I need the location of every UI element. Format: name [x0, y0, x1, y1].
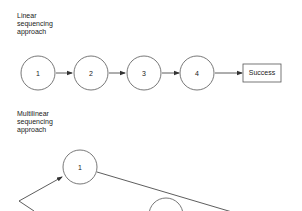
success-box: Success [243, 64, 281, 82]
linear-node-3-label: 3 [142, 70, 146, 77]
multilinear-entry-branch [19, 201, 34, 211]
linear-node-3: 3 [127, 56, 161, 90]
linear-node-1: 1 [21, 56, 55, 90]
sequencing-diagram: 1 2 3 4 Success 1 [0, 0, 302, 211]
linear-node-1-label: 1 [36, 70, 40, 77]
linear-node-2-label: 2 [89, 70, 93, 77]
success-label: Success [249, 69, 276, 76]
multilinear-node-partial [149, 198, 183, 211]
multilinear-entry-arrow [19, 177, 62, 201]
linear-node-4-label: 4 [195, 70, 199, 77]
multilinear-node-1-label: 1 [78, 164, 82, 171]
linear-node-4: 4 [180, 56, 214, 90]
multilinear-node-1: 1 [63, 150, 97, 184]
multilinear-connector [97, 172, 232, 211]
linear-node-2: 2 [74, 56, 108, 90]
